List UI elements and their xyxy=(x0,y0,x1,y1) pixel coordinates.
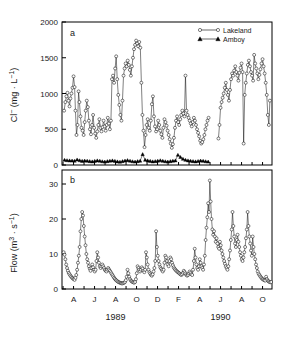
panel-a-label: a xyxy=(70,28,75,38)
data-point-marker xyxy=(233,235,236,238)
x-tick-label: A xyxy=(71,295,77,304)
data-point-marker xyxy=(170,258,173,261)
data-point-marker xyxy=(162,126,165,129)
figure-container: 0500100015002000 a Cl− (mg · L−1) Lakela… xyxy=(0,0,285,337)
data-point-marker xyxy=(84,244,87,247)
data-point-marker xyxy=(171,143,174,146)
data-point-marker xyxy=(95,136,98,139)
data-point-marker xyxy=(151,273,154,276)
data-point-marker xyxy=(254,258,257,261)
data-point-marker xyxy=(208,211,211,214)
data-point-marker xyxy=(157,119,160,122)
data-point-marker xyxy=(79,230,82,233)
data-point-marker xyxy=(121,99,124,102)
data-point-marker xyxy=(199,261,202,264)
data-point-marker xyxy=(191,274,194,277)
data-point-marker xyxy=(204,239,207,242)
data-point-marker xyxy=(206,216,209,219)
data-point-marker xyxy=(247,59,250,62)
data-point-marker xyxy=(250,249,253,252)
data-point-marker xyxy=(78,101,81,104)
data-point-marker xyxy=(242,256,245,259)
data-point-marker xyxy=(182,112,185,115)
data-point-marker xyxy=(115,55,118,58)
data-point-marker xyxy=(158,263,161,266)
axis-title-part: ) xyxy=(9,213,19,216)
data-point-marker xyxy=(173,126,176,129)
data-point-marker xyxy=(244,246,247,249)
data-point-marker xyxy=(104,129,107,132)
data-point-marker xyxy=(86,106,89,109)
data-point-marker xyxy=(86,258,89,261)
data-point-marker xyxy=(184,74,187,77)
data-point-marker xyxy=(201,141,204,144)
figure-background xyxy=(0,0,285,337)
data-point-marker xyxy=(77,90,80,93)
data-point-marker xyxy=(77,254,80,257)
data-point-marker xyxy=(255,67,258,70)
data-point-marker xyxy=(247,225,250,228)
data-point-marker xyxy=(96,251,99,254)
y-tick-label: 2000 xyxy=(40,18,58,27)
data-point-marker xyxy=(74,276,77,279)
data-point-marker xyxy=(83,121,86,124)
data-point-marker xyxy=(150,103,153,106)
data-point-marker xyxy=(152,115,155,118)
data-point-marker xyxy=(203,133,206,136)
data-point-marker xyxy=(117,93,120,96)
data-point-marker xyxy=(236,233,239,236)
x-tick-label: J xyxy=(93,295,97,304)
data-point-marker xyxy=(222,92,225,95)
data-point-marker xyxy=(229,239,232,242)
data-point-marker xyxy=(130,65,133,68)
data-point-marker xyxy=(252,79,255,82)
data-point-marker xyxy=(138,41,141,44)
data-point-marker xyxy=(98,118,101,121)
data-point-marker xyxy=(82,133,85,136)
y-tick-label: 500 xyxy=(45,125,59,134)
panel-b-label: b xyxy=(70,175,75,185)
data-point-marker xyxy=(204,128,207,131)
data-point-marker xyxy=(258,73,261,76)
data-point-marker xyxy=(244,81,247,84)
data-point-marker xyxy=(131,56,134,59)
data-point-marker xyxy=(259,68,262,71)
data-point-marker xyxy=(76,268,79,271)
data-point-marker xyxy=(80,218,83,221)
data-point-marker xyxy=(234,65,237,68)
data-point-marker xyxy=(167,265,170,268)
data-point-marker xyxy=(114,67,117,70)
data-point-marker xyxy=(205,123,208,126)
data-point-marker xyxy=(186,113,189,116)
data-point-marker xyxy=(185,109,188,112)
data-point-marker xyxy=(64,101,67,104)
data-point-marker xyxy=(218,240,221,243)
data-point-marker xyxy=(135,272,138,275)
data-point-marker xyxy=(240,62,243,65)
data-point-marker xyxy=(262,65,265,68)
data-point-marker xyxy=(66,267,69,270)
data-point-marker xyxy=(75,133,78,136)
data-point-marker xyxy=(264,81,267,84)
data-point-marker xyxy=(236,74,239,77)
data-point-marker xyxy=(84,109,87,112)
data-point-marker xyxy=(139,46,142,49)
data-point-marker xyxy=(251,74,254,77)
data-point-marker xyxy=(70,92,73,95)
legend-label-amboy: Amboy xyxy=(223,36,245,44)
data-point-marker xyxy=(64,258,67,261)
data-point-marker xyxy=(232,74,235,77)
data-point-marker xyxy=(154,260,157,263)
data-point-marker xyxy=(218,123,221,126)
data-point-marker xyxy=(163,118,166,121)
data-point-marker xyxy=(231,211,234,214)
data-point-marker xyxy=(239,66,242,69)
data-point-marker xyxy=(92,113,95,116)
data-point-marker xyxy=(237,79,240,82)
data-point-marker xyxy=(96,130,99,133)
data-point-marker xyxy=(192,260,195,263)
data-point-marker xyxy=(147,126,150,129)
data-point-marker xyxy=(188,119,191,122)
data-point-marker xyxy=(165,256,168,259)
data-point-marker xyxy=(87,119,90,122)
